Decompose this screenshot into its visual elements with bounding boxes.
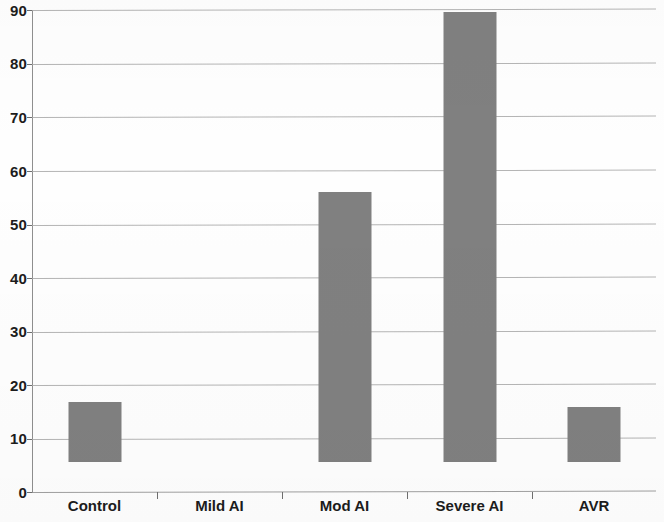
y-axis-label-50: 50 bbox=[1, 217, 27, 232]
bar-slot-control bbox=[32, 0, 157, 462]
bar-mod-ai[interactable] bbox=[318, 192, 371, 463]
bar-control[interactable] bbox=[68, 402, 121, 462]
y-axis-labels: 90 80 70 60 50 40 30 20 10 0 bbox=[0, 0, 27, 522]
y-axis-label-10: 10 bbox=[1, 431, 27, 446]
bar-avr[interactable] bbox=[568, 407, 621, 462]
y-axis-label-90: 90 bbox=[1, 3, 27, 18]
y-axis-label-40: 40 bbox=[1, 271, 27, 286]
y-axis-label-0: 0 bbox=[1, 485, 27, 500]
x-axis-label-mod-ai: Mod AI bbox=[282, 498, 407, 513]
x-axis-label-mild-ai: Mild AI bbox=[157, 498, 282, 513]
y-axis-label-60: 60 bbox=[1, 164, 27, 179]
bar-severe-ai[interactable] bbox=[443, 12, 496, 462]
bar-slot-mild-ai bbox=[157, 0, 282, 462]
y-axis-label-80: 80 bbox=[1, 56, 27, 71]
bars-layer bbox=[32, 0, 656, 492]
x-axis-label-severe-ai: Severe AI bbox=[407, 498, 532, 513]
bar-chart-figure: 90 80 70 60 50 40 30 20 10 0 bbox=[0, 0, 664, 522]
bar-slot-severe-ai bbox=[407, 0, 532, 462]
bar-slot-avr bbox=[532, 0, 656, 462]
x-axis-label-avr: AVR bbox=[532, 498, 656, 513]
x-axis-label-control: Control bbox=[32, 498, 157, 513]
bar-slot-mod-ai bbox=[282, 0, 407, 462]
y-axis-label-20: 20 bbox=[1, 378, 27, 393]
y-axis-label-30: 30 bbox=[1, 324, 27, 339]
y-axis-label-70: 70 bbox=[1, 110, 27, 125]
